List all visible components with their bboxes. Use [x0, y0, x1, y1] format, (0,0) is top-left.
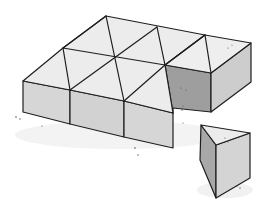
- cake-illustration: [0, 0, 267, 219]
